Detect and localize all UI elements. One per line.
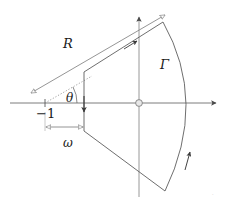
contour-upper-ray [84, 22, 163, 72]
offset-label: ω [63, 137, 73, 149]
angle-label: θ [66, 92, 73, 104]
corner-mark: · [212, 192, 214, 197]
theta-arc [73, 87, 77, 103]
contour-label: Γ [160, 58, 169, 71]
contour-diagram-figure: R Γ θ −1 ω · [0, 0, 231, 208]
figure-canvas [0, 0, 231, 208]
radius-dimension-line [31, 15, 165, 93]
origin-marker [136, 100, 143, 107]
branch-point-label: −1 [36, 107, 55, 120]
contour-arc-gamma [163, 22, 186, 191]
radius-label: R [63, 37, 73, 50]
contour-arc-arrow [185, 152, 190, 170]
contour-lower-ray [84, 131, 165, 191]
